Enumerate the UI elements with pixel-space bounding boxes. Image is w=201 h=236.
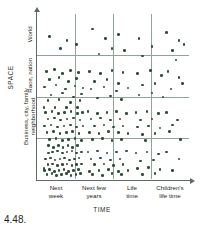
- data-point: [183, 43, 186, 46]
- data-point: [59, 119, 62, 122]
- data-point: [78, 157, 81, 160]
- data-point: [109, 119, 112, 122]
- data-point: [59, 158, 62, 161]
- data-point: [80, 163, 83, 166]
- data-point: [88, 170, 91, 173]
- data-point: [139, 160, 142, 163]
- data-point: [90, 88, 93, 91]
- data-point: [47, 144, 50, 147]
- data-point: [48, 168, 51, 171]
- data-point: [171, 124, 174, 127]
- data-point: [165, 111, 168, 114]
- data-point: [51, 172, 54, 175]
- data-point: [74, 85, 77, 88]
- data-point: [135, 111, 138, 114]
- data-point: [138, 94, 141, 97]
- figure-caption: 4.48.: [4, 214, 26, 225]
- data-point: [54, 159, 57, 162]
- data-point: [99, 72, 102, 75]
- data-point: [96, 112, 99, 115]
- data-point: [76, 106, 79, 109]
- data-point: [127, 87, 130, 90]
- data-point: [93, 125, 96, 128]
- data-point: [109, 95, 112, 98]
- data-point: [55, 137, 58, 140]
- data-point: [162, 96, 165, 99]
- data-point: [53, 68, 56, 71]
- data-point: [90, 158, 93, 161]
- data-point: [76, 112, 79, 115]
- data-point: [72, 117, 75, 120]
- data-point: [104, 37, 107, 40]
- data-point: [47, 99, 50, 102]
- data-point: [111, 139, 114, 142]
- data-point: [48, 138, 51, 141]
- data-point: [127, 132, 130, 135]
- data-point: [71, 130, 74, 133]
- data-point: [151, 118, 154, 121]
- data-point: [165, 31, 168, 34]
- data-point: [154, 132, 157, 135]
- data-point: [57, 112, 60, 115]
- data-point: [47, 163, 50, 166]
- data-point: [75, 173, 78, 176]
- data-point: [141, 133, 144, 136]
- data-point: [141, 55, 144, 58]
- data-point: [135, 152, 138, 155]
- data-point: [53, 117, 56, 120]
- data-point: [103, 86, 106, 89]
- data-point: [139, 119, 142, 122]
- data-point: [91, 28, 94, 31]
- data-point: [67, 80, 70, 83]
- data-point: [178, 158, 181, 161]
- data-point: [66, 163, 69, 166]
- data-point: [76, 144, 79, 147]
- data-point: [51, 163, 54, 166]
- data-point: [65, 172, 68, 175]
- data-point: [120, 98, 123, 101]
- data-point: [91, 173, 94, 176]
- data-point: [181, 82, 184, 85]
- data-point: [165, 151, 168, 154]
- data-point: [168, 130, 171, 133]
- data-point: [120, 173, 123, 176]
- data-point: [59, 132, 62, 135]
- data-point: [75, 152, 78, 155]
- data-point: [71, 150, 74, 153]
- data-point: [115, 151, 118, 154]
- data-point: [53, 170, 56, 173]
- x-axis-title: TIME: [74, 206, 130, 213]
- data-point: [72, 96, 75, 99]
- data-point: [111, 172, 114, 175]
- data-point: [75, 126, 78, 129]
- data-point: [178, 76, 181, 79]
- data-point: [107, 168, 110, 171]
- data-point: [75, 163, 78, 166]
- data-point: [61, 139, 64, 142]
- x-tick-line1: Children's: [147, 184, 193, 192]
- data-point: [70, 174, 73, 177]
- data-point: [61, 163, 64, 166]
- data-point: [120, 138, 123, 141]
- data-point: [99, 157, 102, 160]
- data-point: [77, 168, 80, 171]
- data-point: [147, 125, 150, 128]
- data-point: [47, 118, 50, 121]
- data-point: [88, 131, 91, 134]
- data-point: [93, 163, 96, 166]
- data-point: [122, 71, 125, 74]
- data-point: [69, 101, 72, 104]
- data-point: [98, 169, 101, 172]
- data-point: [55, 84, 58, 87]
- data-point: [51, 151, 54, 154]
- data-point: [125, 150, 128, 153]
- data-point: [151, 45, 154, 48]
- data-point: [62, 146, 65, 149]
- data-point: [58, 169, 61, 172]
- data-point: [58, 98, 61, 101]
- y-axis-arrow-icon: [34, 7, 40, 12]
- data-point: [80, 139, 83, 142]
- data-point: [79, 172, 82, 175]
- data-point: [127, 169, 130, 172]
- data-point: [146, 110, 149, 113]
